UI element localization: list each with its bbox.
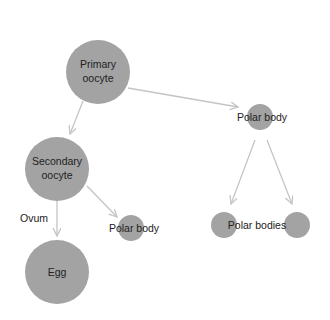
- label-primary: Primary: [80, 58, 117, 70]
- label-polar-body-top: Polar body: [237, 111, 288, 123]
- edge-polar-body-to-polar-bodies-right: [267, 140, 292, 204]
- edge-polar-body-to-polar-bodies-left: [231, 140, 255, 204]
- label-primary-oocyte: oocyte: [83, 72, 114, 84]
- edge-primary-to-polar-body: [128, 88, 238, 107]
- edge-secondary-to-polar-body: [87, 186, 117, 217]
- label-secondary: Secondary: [32, 155, 83, 167]
- label-polar-bodies: Polar bodies: [228, 219, 286, 231]
- label-egg: Egg: [48, 266, 67, 278]
- label-ovum: Ovum: [20, 212, 48, 224]
- oogenesis-diagram: Primary oocyte Secondary oocyte Egg Ovum…: [0, 0, 330, 320]
- node-polar-body-bottom-right: [284, 212, 310, 238]
- label-polar-body-left: Polar body: [109, 222, 160, 234]
- edge-primary-to-secondary: [70, 101, 83, 134]
- label-secondary-oocyte: oocyte: [42, 169, 73, 181]
